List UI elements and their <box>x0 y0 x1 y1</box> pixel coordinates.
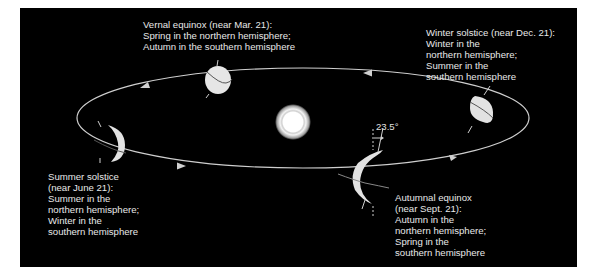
label-line: (near Sept. 21): <box>395 203 486 214</box>
label-line: (near June 21): <box>48 182 139 193</box>
earth-vernal-icon <box>205 60 232 98</box>
label-line: Summer solstice <box>48 171 139 182</box>
label-line: Winter in the <box>48 215 139 226</box>
label-line: Winter in the <box>426 38 555 49</box>
label-line: northern hemisphere; <box>48 204 139 215</box>
sun-icon <box>275 104 311 140</box>
earth-autumnal-icon <box>338 128 389 216</box>
autumnal-equinox-label: Autumnal equinox (near Sept. 21): Autumn… <box>395 192 486 258</box>
vernal-equinox-label: Vernal equinox (near Mar. 21): Spring in… <box>143 19 295 52</box>
label-line: Autumn in the <box>395 214 486 225</box>
earth-summer-icon <box>94 121 126 163</box>
label-line: northern hemisphere; <box>395 225 486 236</box>
winter-solstice-label: Winter solstice (near Dec. 21): Winter i… <box>426 27 555 82</box>
label-line: northern hemisphere; <box>426 49 555 60</box>
label-line: southern hemisphere <box>48 226 139 237</box>
label-line: Winter solstice (near Dec. 21): <box>426 27 555 38</box>
tilt-angle-label: 23.5° <box>376 121 399 132</box>
label-line: Spring in the northern hemisphere; <box>143 30 295 41</box>
label-line: Summer in the <box>426 60 555 71</box>
summer-solstice-label: Summer solstice (near June 21): Summer i… <box>48 171 139 237</box>
label-line: Autumn in the southern hemisphere <box>143 41 295 52</box>
earth-winter-icon <box>468 86 493 133</box>
label-line: southern hemisphere <box>395 247 486 258</box>
label-line: Autumnal equinox <box>395 192 486 203</box>
label-line: Summer in the <box>48 193 139 204</box>
label-line: Spring in the <box>395 236 486 247</box>
label-line: Vernal equinox (near Mar. 21): <box>143 19 295 30</box>
label-line: southern hemisphere <box>426 71 555 82</box>
